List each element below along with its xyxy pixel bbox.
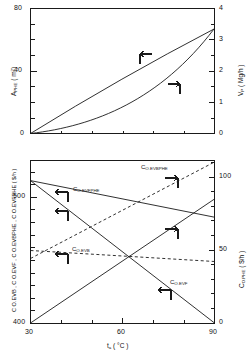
top-ytick-80: 80: [14, 4, 22, 11]
top-panel-left-ticks: [31, 9, 37, 134]
bottom-ytick-400: 400: [13, 318, 25, 325]
y2-axis-subscript: P: [240, 89, 245, 92]
y2-axis-symbol: V: [237, 92, 244, 96]
top-y2tick-3: 3: [219, 35, 223, 42]
axis-pointer-c-o-evbphe: [165, 175, 178, 188]
top-panel-right-ticks: [209, 9, 215, 134]
curve-label-c-o-evb: CO.EVB: [72, 246, 90, 252]
top-y2tick-4: 4: [219, 4, 223, 11]
bottom-y2tick-100: 100: [219, 172, 231, 179]
curve-label-subscript-evb: O.EVB: [76, 248, 89, 253]
x-axis-subscript: a: [109, 345, 111, 350]
bottom-xtick-90: 90: [209, 328, 217, 335]
bottom-xtick-30: 30: [25, 328, 33, 335]
curve-label-c-o-evbphe: CO.EVBPHE: [141, 164, 168, 170]
bottom-y2tick-0: 0: [219, 318, 223, 325]
axis-pointer-c-o-evfphe: [55, 189, 68, 202]
x-axis-unit: ( °C ): [113, 342, 128, 349]
y-axis-symbol: A: [10, 92, 17, 96]
bottom-panel-frame: [31, 161, 215, 324]
axis-pointer-c-o-evf-upper: [55, 208, 68, 221]
y2-cost-unit: ( $/h ): [238, 251, 245, 268]
y2-cost-symbol: C: [238, 283, 245, 288]
curve-a-phe: [31, 29, 215, 134]
y2-cost-subscript: O.PHE: [241, 270, 246, 284]
bottom-xtick-60: 60: [117, 328, 125, 335]
bottom-panel-left-ticks: [31, 172, 37, 323]
bottom-panel-right-ticks: [209, 162, 215, 323]
curve-label-c-o-evf: CO.EVF: [170, 279, 188, 285]
y-axis-subscript: PHE: [13, 83, 18, 92]
top-y2tick-1: 1: [219, 98, 223, 105]
curve-label-c-o-evfphe: CO.EVFPHE: [73, 186, 100, 192]
top-y2tick-2: 2: [219, 66, 223, 73]
bottom-panel-y2-axis-title: CO.PHE ( $/h ): [238, 251, 245, 288]
top-ytick-0: 0: [20, 129, 24, 136]
curve-label-subscript-evbphe: O.EVBPHE: [145, 166, 167, 171]
bottom-panel-y-axis-title: C O.EVB , C O.EVF , C O.EVBPHE , C O.EVF…: [11, 169, 17, 312]
curve-c-o-evbphe: [31, 162, 215, 259]
top-panel-y-axis-title: APHE ( m2): [10, 67, 17, 96]
bottom-y2tick-50: 50: [219, 245, 227, 252]
curve-v-p: [31, 29, 215, 134]
axis-pointer-v-p: [168, 81, 180, 94]
curve-label-subscript-evf: O.EVF: [174, 281, 187, 286]
top-y2tick-0: 0: [219, 129, 223, 136]
axis-pointer-c-o-evf-lower: [158, 287, 171, 300]
axis-pointer-a-phe: [140, 51, 152, 64]
top-panel-y2-axis-title: VP ( Mg/h ): [237, 65, 244, 97]
figure-canvas: 80 40 0 4 3 2 1 0 APHE ( m2) VP ( Mg/h )…: [0, 0, 248, 358]
bottom-panel-x-ticks: [31, 318, 215, 324]
y2-axis-unit: ( Mg/h ): [237, 65, 244, 87]
curve-label-subscript-evfphe: O.EVFPHE: [77, 188, 99, 193]
top-panel-frame: [31, 9, 215, 134]
chart-svg: [0, 0, 248, 358]
curve-c-o-phe: [31, 199, 215, 323]
bottom-panel-x-axis-title: ta ( °C ): [107, 342, 128, 349]
curve-c-o-evfphe: [31, 181, 215, 218]
y-axis-unit-open: ( m: [10, 71, 17, 80]
